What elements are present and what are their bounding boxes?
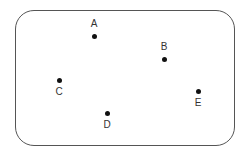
diagram-frame <box>15 10 235 146</box>
point-label: D <box>97 120 117 130</box>
point-label: C <box>49 87 69 97</box>
point-dot <box>196 89 201 94</box>
point-label: E <box>188 98 208 108</box>
point-dot <box>57 78 62 83</box>
point-dot <box>92 34 97 39</box>
point-label: B <box>154 42 174 52</box>
point-dot <box>105 111 110 116</box>
point-dot <box>162 57 167 62</box>
point-label: A <box>84 19 104 29</box>
